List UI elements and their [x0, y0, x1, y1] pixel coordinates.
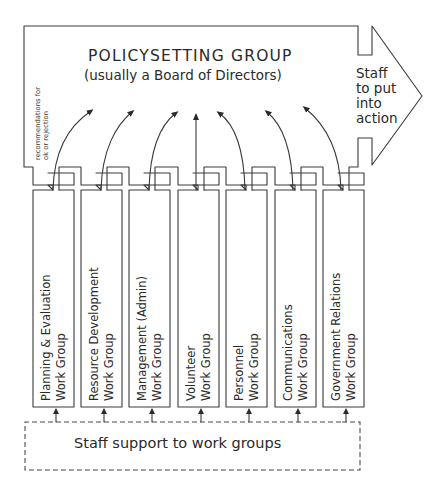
staff-support-label: Staff support to work groups: [74, 435, 281, 451]
work-group-suffix: Work Group: [150, 333, 164, 401]
column-cap: [241, 173, 267, 190]
work-group-label: CommunicationsWork Group: [281, 304, 310, 401]
work-group-layer: Planning & EvaluationWork GroupResource …: [0, 0, 444, 498]
arrow-up-icon: [53, 408, 59, 414]
work-group-label: Government RelationsWork Group: [329, 273, 358, 401]
arrow-up-icon: [295, 408, 301, 414]
work-group-suffix: Work Group: [54, 333, 68, 401]
work-group-column: Government RelationsWork Group: [323, 173, 364, 422]
arrow-up-icon: [198, 408, 204, 414]
work-group-label: Resource DevelopmentWork Group: [87, 267, 116, 401]
column-cap: [290, 173, 316, 190]
column-cap: [338, 173, 364, 190]
column-cap: [193, 173, 219, 190]
work-group-column: VolunteerWork Group: [178, 173, 219, 422]
work-group-suffix: Work Group: [247, 333, 261, 401]
work-group-name: Management (Admin): [135, 276, 149, 401]
arrow-up-icon: [149, 408, 155, 414]
work-group-column: PersonnelWork Group: [226, 173, 267, 422]
work-group-name: Resource Development: [87, 267, 101, 401]
work-group-suffix: Work Group: [102, 333, 116, 401]
work-group-label: Management (Admin)Work Group: [135, 276, 164, 401]
work-group-name: Planning & Evaluation: [39, 275, 53, 402]
work-group-name: Communications: [281, 304, 295, 401]
work-group-column: Management (Admin)Work Group: [129, 173, 170, 422]
work-group-label: VolunteerWork Group: [184, 333, 213, 401]
work-group-column: Planning & EvaluationWork Group: [33, 173, 74, 422]
work-group-name: Government Relations: [329, 273, 343, 401]
arrow-up-icon: [101, 408, 107, 414]
work-group-column: Resource DevelopmentWork Group: [81, 173, 122, 422]
column-cap: [144, 173, 170, 190]
work-group-name: Personnel: [232, 345, 246, 401]
work-group-suffix: Work Group: [296, 333, 310, 401]
work-group-column: CommunicationsWork Group: [275, 173, 316, 422]
work-group-label: PersonnelWork Group: [232, 333, 261, 401]
work-group-label: Planning & EvaluationWork Group: [39, 275, 68, 402]
column-cap: [48, 173, 74, 190]
work-group-suffix: Work Group: [199, 333, 213, 401]
arrow-up-icon: [246, 408, 252, 414]
arrow-up-icon: [343, 408, 349, 414]
work-group-name: Volunteer: [184, 346, 198, 401]
work-group-suffix: Work Group: [344, 333, 358, 401]
column-cap: [96, 173, 122, 190]
